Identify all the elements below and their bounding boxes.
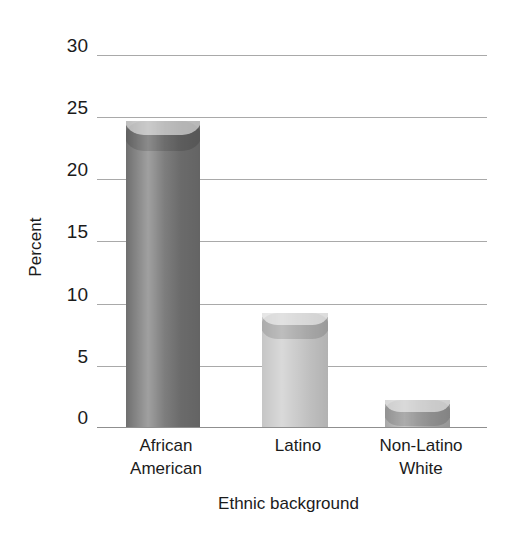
bar-body [126, 121, 200, 427]
y-tick-label-15: 15 [67, 222, 88, 241]
bar-body [262, 313, 328, 427]
bars-layer [97, 55, 487, 428]
x-category-label-non-latino-white: Non-Latino White [345, 434, 497, 480]
bar-body [385, 400, 450, 427]
bar-sheen [385, 400, 450, 427]
y-axis-title: Percent [26, 187, 48, 307]
y-tick-label-10: 10 [67, 285, 88, 304]
x-axis-title: Ethnic background [0, 494, 517, 514]
bar-chart: Percent 30 25 20 15 10 5 0 [0, 0, 517, 539]
bar-sheen [262, 313, 328, 427]
y-tick-label-30: 30 [67, 36, 88, 55]
y-tick-label-20: 20 [67, 160, 88, 179]
bar-latino[interactable] [262, 313, 328, 427]
bar-non-latino-white[interactable] [385, 400, 450, 427]
bar-sheen [126, 121, 200, 427]
y-tick-label-0: 0 [77, 408, 88, 427]
y-tick-label-5: 5 [77, 347, 88, 366]
y-tick-label-25: 25 [67, 98, 88, 117]
plot-area: 30 25 20 15 10 5 0 [97, 55, 487, 428]
bar-african-american[interactable] [126, 121, 200, 427]
